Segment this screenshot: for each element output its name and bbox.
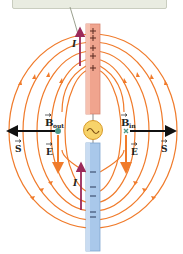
diagram-svg: I I B out B in E E (0, 0, 183, 254)
callout-pointer (70, 7, 78, 34)
ac-source (84, 114, 103, 143)
bottom-rod (86, 143, 100, 251)
top-rod (86, 24, 100, 114)
s-label-left: S (15, 140, 22, 155)
b-in-cross-icon (124, 129, 128, 133)
svg-text:E: E (131, 147, 138, 157)
svg-text:in: in (129, 122, 136, 129)
dipole-antenna-diagram: I I B out B in E E (0, 0, 183, 254)
svg-text:S: S (161, 144, 168, 154)
current-label-bottom: I (72, 178, 78, 188)
svg-text:E: E (46, 147, 53, 157)
current-label-top: I (71, 39, 77, 49)
svg-text:out: out (53, 122, 64, 129)
b-out-label: B out (45, 114, 64, 130)
svg-text:S: S (15, 144, 22, 154)
